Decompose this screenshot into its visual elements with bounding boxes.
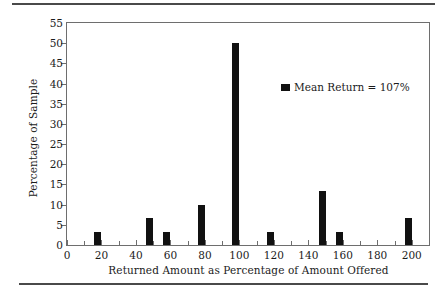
bar (267, 232, 274, 245)
x-axis-minor-tick-mark (326, 241, 327, 245)
x-axis-tick-mark (412, 240, 413, 245)
x-axis-minor-tick-mark (291, 241, 292, 245)
bar (163, 232, 170, 245)
y-axis-tick-label: 30 (50, 118, 63, 130)
y-axis-tick-label: 15 (50, 178, 63, 190)
x-axis-tick-mark (308, 240, 309, 245)
x-axis-minor-tick-mark (188, 241, 189, 245)
x-axis-minor-tick-mark (395, 241, 396, 245)
y-axis-tick-label: 10 (50, 199, 63, 211)
bar (198, 205, 205, 245)
x-axis-tick-label: 180 (367, 249, 387, 261)
x-axis-tick-mark (377, 240, 378, 245)
bar (405, 218, 412, 245)
plot-area: 0510152025303540455055 02040608010012014… (66, 22, 430, 246)
bar (319, 191, 326, 245)
x-axis-minor-tick-mark (222, 241, 223, 245)
x-axis-tick-mark (101, 240, 102, 245)
x-axis-tick-mark (343, 240, 344, 245)
x-axis-minor-tick-mark (119, 241, 120, 245)
x-axis-tick-label: 120 (264, 249, 284, 261)
x-axis-title: Returned Amount as Percentage of Amount … (66, 264, 431, 276)
x-axis-minor-tick-mark (84, 241, 85, 245)
y-axis-tick-label: 20 (50, 158, 63, 170)
y-axis-title: Percentage of Sample (27, 33, 39, 243)
chart-legend: Mean Return = 107% (281, 81, 410, 93)
y-axis-tick-label: 35 (50, 98, 63, 110)
bar (94, 232, 101, 245)
x-axis-tick-mark (239, 240, 240, 245)
y-axis-tick-label: 40 (50, 78, 63, 90)
y-axis-tick-label: 55 (50, 17, 63, 29)
figure-container: Percentage of Sample 0510152025303540455… (0, 0, 447, 297)
x-axis-tick-label: 20 (95, 249, 108, 261)
x-axis-minor-tick-mark (257, 241, 258, 245)
legend-label: Mean Return = 107% (294, 81, 410, 93)
x-axis-tick-label: 80 (198, 249, 211, 261)
x-axis-tick-label: 160 (333, 249, 353, 261)
x-axis-tick-label: 0 (64, 249, 71, 261)
y-axis-tick-label: 50 (50, 37, 63, 49)
x-axis-tick-mark (67, 240, 68, 245)
x-axis-tick-mark (170, 240, 171, 245)
legend-swatch-icon (281, 84, 290, 91)
x-axis-minor-tick-mark (360, 241, 361, 245)
bar (336, 232, 343, 245)
x-axis-minor-tick-mark (153, 241, 154, 245)
bar (232, 43, 239, 245)
top-horizontal-rule (12, 3, 435, 5)
y-axis-tick-label: 25 (50, 138, 63, 150)
bottom-horizontal-rule (19, 283, 428, 285)
x-axis-tick-mark (274, 240, 275, 245)
x-axis-tick-label: 200 (402, 249, 422, 261)
x-axis-tick-label: 40 (129, 249, 142, 261)
bar (146, 218, 153, 245)
x-axis-tick-mark (136, 240, 137, 245)
x-axis-tick-mark (205, 240, 206, 245)
x-axis-tick-label: 60 (164, 249, 177, 261)
y-axis-tick-label: 5 (56, 219, 63, 231)
x-axis-tick-label: 100 (229, 249, 249, 261)
y-axis-tick-label: 45 (50, 57, 63, 69)
x-axis-tick-label: 140 (298, 249, 318, 261)
y-axis-tick-label: 0 (56, 239, 63, 251)
